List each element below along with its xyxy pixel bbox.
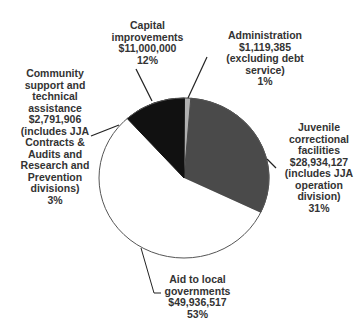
label-line: Contracts & bbox=[12, 137, 98, 149]
label-juvenile: Juvenilecorrectionalfacilities$28,934,12… bbox=[276, 122, 362, 214]
label-line: facilities bbox=[276, 145, 362, 157]
leader-capital bbox=[136, 69, 152, 101]
label-line: divisions) bbox=[12, 183, 98, 195]
label-line: Research and bbox=[12, 160, 98, 172]
label-line: (excluding debt bbox=[215, 53, 315, 65]
label-line: 1% bbox=[215, 76, 315, 88]
label-line: division) bbox=[276, 191, 362, 203]
label-line: $11,000,000 bbox=[100, 43, 195, 55]
label-line: Capital bbox=[100, 20, 195, 32]
label-admin: Administration$1,119,385(excluding debts… bbox=[215, 30, 315, 88]
label-line: Community bbox=[12, 68, 98, 80]
label-line: Juvenile bbox=[276, 122, 362, 134]
label-line: Administration bbox=[215, 30, 315, 42]
label-line: technical bbox=[12, 91, 98, 103]
label-line: 31% bbox=[276, 203, 362, 215]
label-line: 53% bbox=[160, 309, 235, 321]
label-line: 12% bbox=[100, 55, 195, 67]
label-line: Aid to local bbox=[160, 274, 235, 286]
label-line: 3% bbox=[12, 195, 98, 207]
label-aid: Aid to localgovernments$49,936,51753% bbox=[160, 274, 235, 320]
label-capital: Capitalimprovements$11,000,00012% bbox=[100, 20, 195, 66]
label-line: $49,936,517 bbox=[160, 297, 235, 309]
leader-aid bbox=[141, 248, 161, 293]
label-community: Communitysupport andtechnicalassistance$… bbox=[12, 68, 98, 206]
label-line: (includes JJA bbox=[276, 168, 362, 180]
label-line: $2,791,906 bbox=[12, 114, 98, 126]
